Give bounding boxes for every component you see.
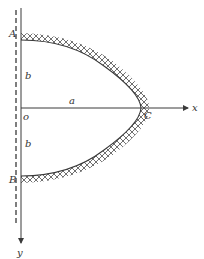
dimension-a-label: a xyxy=(69,95,75,106)
point-b-label: B xyxy=(8,174,16,185)
origin-label: o xyxy=(23,111,29,122)
dimension-b-upper-label: b xyxy=(25,70,31,81)
diagram-canvas: A B C a b b o x y xyxy=(0,0,204,259)
point-a-label: A xyxy=(8,28,16,39)
point-c-label: C xyxy=(144,110,152,121)
x-axis-label: x xyxy=(192,102,198,113)
dimension-b-lower-label: b xyxy=(25,138,31,149)
y-axis-label: y xyxy=(16,247,23,258)
